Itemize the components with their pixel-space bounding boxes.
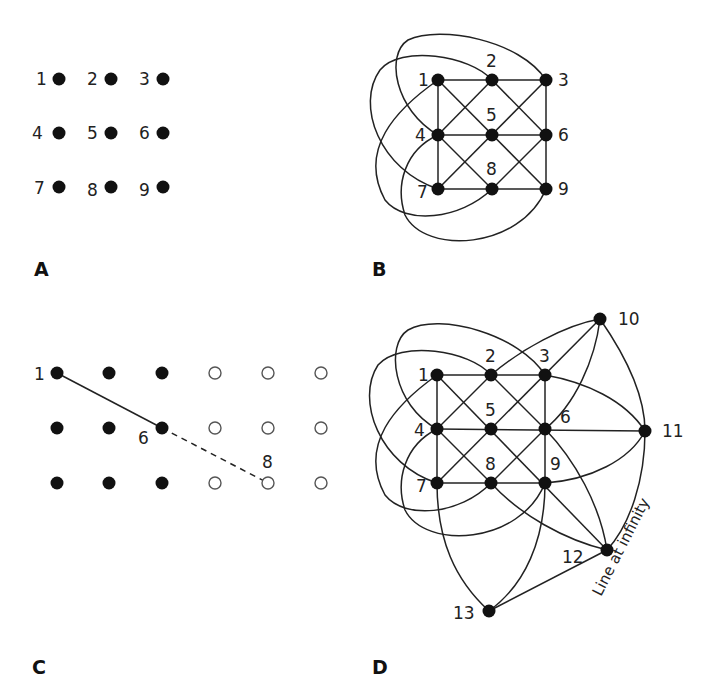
panel-c: 1 6 8 C <box>32 364 327 678</box>
point-a5 <box>105 127 118 140</box>
point-d9 <box>539 477 552 490</box>
point-c8 <box>262 477 274 489</box>
point-c-filled <box>103 367 116 380</box>
point-c-hollow <box>209 367 221 379</box>
label-a2: 2 <box>87 69 98 89</box>
curve-b-2-7 <box>370 56 492 189</box>
point-c-filled <box>51 422 64 435</box>
label-d9: 9 <box>550 454 561 474</box>
point-d6 <box>539 423 552 436</box>
point-b9 <box>540 183 553 196</box>
label-d7: 7 <box>416 476 427 496</box>
line-d-68 <box>491 429 545 483</box>
point-b7 <box>432 183 445 196</box>
point-a3 <box>157 73 170 86</box>
line-d-159-12 <box>437 375 607 550</box>
point-c-hollow <box>315 477 327 489</box>
label-b7: 7 <box>417 182 428 202</box>
curve-d-9-13 <box>489 483 545 611</box>
panel-c-filled-points <box>51 367 169 490</box>
point-c6 <box>156 422 169 435</box>
label-d11: 11 <box>662 421 684 441</box>
label-a9: 9 <box>139 180 150 200</box>
point-d4 <box>431 423 444 436</box>
point-d1 <box>431 369 444 382</box>
label-d6: 6 <box>560 407 571 427</box>
point-c-hollow <box>315 422 327 434</box>
panel-label-a: A <box>34 258 49 280</box>
point-d5 <box>485 423 498 436</box>
point-a1 <box>53 73 66 86</box>
point-c-hollow <box>315 367 327 379</box>
point-a8 <box>105 181 118 194</box>
panel-a-labels: 1 2 3 4 5 6 7 8 9 <box>32 69 150 200</box>
panel-b-curved-lines <box>370 34 546 240</box>
label-d8: 8 <box>485 454 496 474</box>
label-c1: 1 <box>34 364 45 384</box>
label-b9: 9 <box>558 179 569 199</box>
point-c1 <box>51 367 64 380</box>
curve-d-10-11 <box>600 319 645 431</box>
curve-d-2-7 <box>370 351 492 483</box>
label-c8: 8 <box>262 452 273 472</box>
label-b4: 4 <box>415 125 426 145</box>
label-a4: 4 <box>32 123 43 143</box>
point-c-hollow <box>262 367 274 379</box>
point-c-hollow <box>262 422 274 434</box>
panel-label-c: C <box>32 656 46 678</box>
point-d13 <box>483 605 496 618</box>
label-a7: 7 <box>34 178 45 198</box>
point-a4 <box>53 127 66 140</box>
point-c-hollow <box>209 477 221 489</box>
label-b1: 1 <box>418 70 429 90</box>
label-d10: 10 <box>618 309 640 329</box>
label-d13: 13 <box>453 603 475 623</box>
point-d8 <box>485 477 498 490</box>
label-d12: 12 <box>562 547 584 567</box>
panel-d: 1 2 3 4 5 6 7 8 9 10 11 12 13 Line at in… <box>370 309 684 678</box>
label-a1: 1 <box>36 69 47 89</box>
point-c-hollow <box>209 422 221 434</box>
dashed-line-c-6-8 <box>162 428 268 483</box>
label-b8: 8 <box>486 159 497 179</box>
point-b6 <box>540 129 553 142</box>
point-a2 <box>105 73 118 86</box>
label-b3: 3 <box>558 70 569 90</box>
label-d3: 3 <box>539 346 550 366</box>
point-d7 <box>431 477 444 490</box>
label-b6: 6 <box>558 125 569 145</box>
label-b2: 2 <box>486 51 497 71</box>
point-b2 <box>486 74 499 87</box>
point-a7 <box>53 181 66 194</box>
line-d-12-13 <box>489 550 607 611</box>
curve-d-1-8 <box>376 375 491 511</box>
panel-a-points <box>53 73 170 194</box>
label-a8: 8 <box>87 180 98 200</box>
curve-d-6-12 <box>545 429 607 550</box>
line-at-infinity-annotation: Line at infinity <box>589 495 654 599</box>
label-a6: 6 <box>139 123 150 143</box>
panel-b: 1 2 3 4 5 6 7 8 9 B <box>370 34 568 280</box>
point-c-filled <box>51 477 64 490</box>
line-c-1-6 <box>57 373 162 428</box>
label-d4: 4 <box>414 420 425 440</box>
label-b5: 5 <box>486 105 497 125</box>
panel-label-d: D <box>372 656 388 678</box>
point-c-filled <box>156 477 169 490</box>
label-d1: 1 <box>418 365 429 385</box>
point-a9 <box>157 181 170 194</box>
panel-a: 1 2 3 4 5 6 7 8 9 A <box>32 69 170 280</box>
label-a5: 5 <box>87 123 98 143</box>
point-a6 <box>157 127 170 140</box>
panel-label-b: B <box>372 258 386 280</box>
point-b1 <box>432 74 445 87</box>
label-d5: 5 <box>485 400 496 420</box>
curve-b-1-8 <box>376 80 492 216</box>
finite-geometry-figure: 1 2 3 4 5 6 7 8 9 A <box>0 0 709 699</box>
point-c-filled <box>156 367 169 380</box>
point-b8 <box>486 183 499 196</box>
label-a3: 3 <box>139 69 150 89</box>
point-b5 <box>486 129 499 142</box>
point-d11 <box>639 425 652 438</box>
point-c-filled <box>103 422 116 435</box>
